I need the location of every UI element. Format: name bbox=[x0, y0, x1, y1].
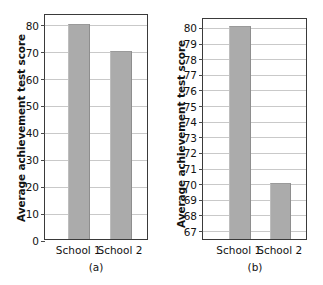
y-axis-tick-label: 80 bbox=[26, 20, 39, 32]
chart-panel-a: Average achievement test score 010203040… bbox=[0, 0, 160, 285]
panel-caption-b: (b) bbox=[248, 261, 263, 273]
y-axis-tick-mark bbox=[41, 187, 45, 188]
y-axis-tick-mark bbox=[199, 106, 203, 107]
bar-school-1 bbox=[68, 24, 90, 239]
y-axis-tick-mark bbox=[41, 214, 45, 215]
bar-school-2 bbox=[110, 51, 132, 239]
y-axis-tick-label: 80 bbox=[184, 22, 197, 34]
y-axis-tick-mark bbox=[199, 75, 203, 76]
y-axis-tick-label: 75 bbox=[184, 101, 197, 113]
y-axis-tick-label: 60 bbox=[26, 74, 39, 86]
y-axis-tick-label: 78 bbox=[184, 54, 197, 66]
y-axis-tick-label: 69 bbox=[184, 194, 197, 206]
gridline bbox=[203, 106, 306, 107]
bar-school-1 bbox=[229, 26, 251, 239]
bar-school-2 bbox=[270, 183, 292, 239]
y-axis-tick-mark bbox=[41, 133, 45, 134]
gridline bbox=[45, 25, 147, 26]
y-axis-tick-mark bbox=[199, 90, 203, 91]
y-axis-tick-label: 79 bbox=[184, 38, 197, 50]
y-axis-tick-mark bbox=[41, 160, 45, 161]
y-axis-tick-label: 74 bbox=[184, 116, 197, 128]
gridline bbox=[203, 137, 306, 138]
y-axis-tick-mark bbox=[41, 241, 45, 242]
x-axis-label-school-2-a: School 2 bbox=[97, 244, 142, 256]
y-axis-tick-mark bbox=[199, 215, 203, 216]
y-axis-tick-label: 50 bbox=[26, 100, 39, 112]
figure-container: Average achievement test score 010203040… bbox=[0, 0, 323, 285]
y-axis-tick-mark bbox=[199, 153, 203, 154]
y-axis-tick-label: 10 bbox=[26, 208, 39, 220]
y-axis-tick-label: 20 bbox=[26, 181, 39, 193]
y-axis-tick-label: 70 bbox=[184, 179, 197, 191]
y-axis-tick-mark bbox=[41, 106, 45, 107]
gridline bbox=[203, 28, 306, 29]
y-axis-tick-mark bbox=[199, 137, 203, 138]
y-axis-tick-mark bbox=[199, 44, 203, 45]
y-axis-tick-label: 70 bbox=[26, 47, 39, 59]
x-axis-label-school-1-a: School 1 bbox=[56, 244, 101, 256]
chart-panel-b: Average achievement test score 676869707… bbox=[160, 0, 323, 285]
y-axis-tick-mark bbox=[199, 200, 203, 201]
plot-area-a: 01020304050607080 bbox=[44, 14, 148, 240]
gridline bbox=[203, 75, 306, 76]
gridline bbox=[203, 122, 306, 123]
y-axis-tick-label: 76 bbox=[184, 85, 197, 97]
y-axis-tick-mark bbox=[41, 25, 45, 26]
y-axis-tick-label: 30 bbox=[26, 154, 39, 166]
y-axis-tick-label: 72 bbox=[184, 147, 197, 159]
plot-area-b: 6768697071727374757677787980 bbox=[202, 18, 307, 240]
panel-caption-a: (a) bbox=[89, 261, 104, 273]
x-axis-label-school-1-b: School 1 bbox=[216, 244, 261, 256]
y-axis-tick-mark bbox=[41, 79, 45, 80]
gridline bbox=[203, 153, 306, 154]
y-axis-tick-mark bbox=[199, 169, 203, 170]
y-axis-tick-label: 67 bbox=[184, 226, 197, 238]
y-axis-tick-label: 77 bbox=[184, 69, 197, 81]
y-axis-tick-label: 40 bbox=[26, 127, 39, 139]
y-axis-tick-label: 71 bbox=[184, 163, 197, 175]
x-axis-label-school-2-b: School 2 bbox=[257, 244, 302, 256]
y-axis-tick-mark bbox=[199, 28, 203, 29]
y-axis-tick-mark bbox=[199, 231, 203, 232]
y-axis-tick-mark bbox=[199, 59, 203, 60]
gridline bbox=[203, 169, 306, 170]
y-axis-tick-label: 73 bbox=[184, 132, 197, 144]
y-axis-tick-label: 0 bbox=[32, 235, 39, 247]
y-axis-tick-mark bbox=[199, 122, 203, 123]
y-axis-tick-mark bbox=[41, 52, 45, 53]
gridline bbox=[203, 59, 306, 60]
gridline bbox=[203, 44, 306, 45]
gridline bbox=[203, 90, 306, 91]
y-axis-tick-mark bbox=[199, 184, 203, 185]
y-axis-tick-label: 68 bbox=[184, 210, 197, 222]
